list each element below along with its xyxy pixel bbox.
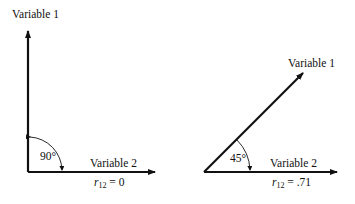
correlation-subscript: 12	[98, 181, 106, 190]
angle-label: 45°	[230, 153, 246, 165]
correlation-value: r12 = 0	[94, 177, 124, 190]
correlation-equals: = .71	[287, 176, 311, 188]
label-variable-2: Variable 2	[90, 158, 137, 170]
correlation-subscript: 12	[276, 181, 284, 190]
correlation-equals: = 0	[109, 176, 124, 188]
correlation-value: r12 = .71	[272, 177, 311, 190]
label-variable-2: Variable 2	[270, 158, 317, 170]
label-variable-1: Variable 1	[288, 58, 335, 70]
label-variable-1: Variable 1	[12, 9, 59, 21]
angle-label: 90°	[40, 151, 56, 163]
vector-diagram	[0, 0, 355, 204]
